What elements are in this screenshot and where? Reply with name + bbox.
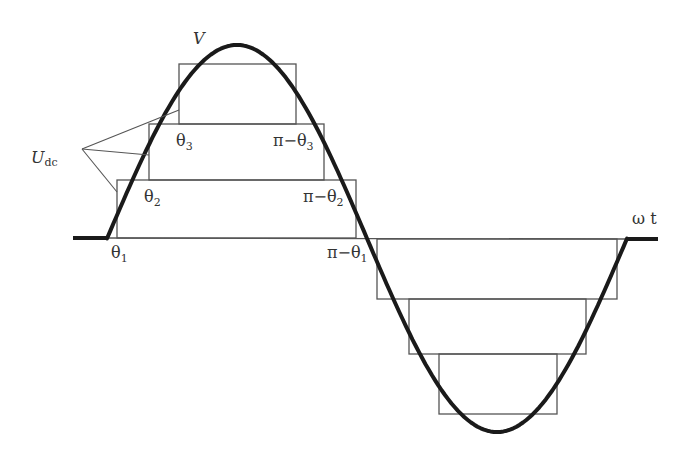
theta2-label: θ2	[144, 187, 161, 209]
wave-label-v: V	[193, 29, 206, 48]
pi-minus-theta2-label: π−θ2	[303, 187, 344, 209]
positive-level-3-box	[179, 64, 296, 124]
udc-label: Udc	[31, 148, 58, 169]
udc-leader-level-2	[82, 149, 149, 155]
omega-t-axis-label: ω t	[632, 209, 657, 228]
staircase-waveform-diagram: V Udc θ3 π−θ3 θ2 π−θ2 θ1 π−θ1 ω t	[0, 0, 697, 455]
pi-theta3-sub: 3	[307, 140, 314, 153]
pi-theta2-sub: 2	[337, 196, 344, 209]
pi-minus-theta3-label: π−θ3	[273, 131, 314, 153]
theta2-main: θ	[144, 187, 154, 206]
theta2-sub: 2	[154, 196, 161, 209]
pi-theta1-sub: 1	[361, 252, 368, 265]
udc-leader-level-1	[82, 149, 117, 192]
theta3-sub: 3	[186, 140, 193, 153]
udc-label-sub: dc	[44, 156, 57, 169]
negative-step-boxes	[377, 239, 617, 414]
negative-level-1-box	[377, 239, 617, 299]
pi-theta3-main: π−θ	[273, 131, 307, 150]
udc-label-main: U	[31, 148, 45, 167]
theta3-label: θ3	[176, 131, 193, 153]
theta1-main: θ	[111, 243, 121, 262]
theta3-main: θ	[176, 131, 186, 150]
positive-step-boxes	[117, 64, 356, 238]
pi-theta1-main: π−θ	[327, 243, 361, 262]
udc-leader-level-3	[82, 110, 179, 149]
negative-level-2-box	[409, 299, 586, 354]
pi-minus-theta1-label: π−θ1	[327, 243, 368, 265]
pi-theta2-main: π−θ	[303, 187, 337, 206]
theta1-label: θ1	[111, 243, 128, 265]
theta1-sub: 1	[121, 252, 128, 265]
